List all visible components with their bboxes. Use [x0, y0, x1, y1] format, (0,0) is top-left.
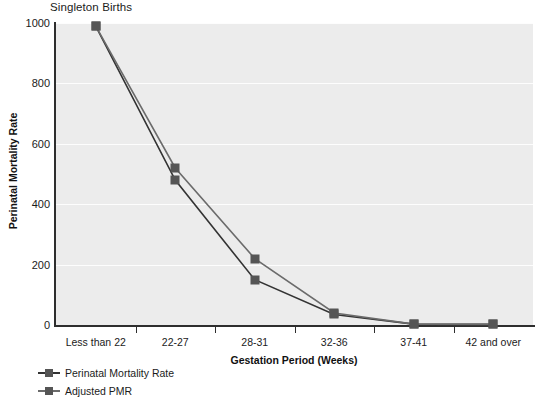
y-axis-tick-label: 800 — [2, 77, 50, 89]
data-point-marker — [250, 254, 259, 263]
data-point-marker — [171, 163, 180, 172]
x-axis-tick-label: Less than 22 — [66, 336, 126, 348]
gridline — [56, 144, 533, 145]
gridline — [56, 204, 533, 205]
data-point-marker — [409, 320, 418, 329]
legend-marker-icon — [38, 385, 60, 397]
chart-title: Singleton Births — [50, 1, 132, 13]
data-point-marker — [250, 275, 259, 284]
x-axis-tick-label: 37-41 — [400, 336, 427, 348]
y-axis-line — [54, 22, 56, 326]
data-point-marker — [91, 22, 100, 31]
x-axis-tick-label: 22-27 — [162, 336, 189, 348]
legend-item-label: Perinatal Mortality Rate — [65, 367, 174, 379]
gridline — [56, 265, 533, 266]
gridline — [56, 23, 533, 24]
x-axis-tick-mark — [136, 325, 137, 333]
legend-item[interactable]: Perinatal Mortality Rate — [38, 364, 174, 382]
x-axis-tick-label: 42 and over — [466, 336, 521, 348]
y-axis-tick-label: 600 — [2, 138, 50, 150]
data-point-marker — [330, 308, 339, 317]
chart-figure: Singleton Births Perinatal Mortality Rat… — [0, 0, 547, 408]
gridline — [56, 83, 533, 84]
y-axis-title: Perinatal Mortality Rate — [7, 86, 19, 256]
x-axis-tick-mark — [215, 325, 216, 333]
x-axis-tick-mark — [454, 325, 455, 333]
chart-legend: Perinatal Mortality RateAdjusted PMR — [38, 364, 174, 400]
legend-item-label: Adjusted PMR — [65, 385, 132, 397]
y-axis-tick-label: 200 — [2, 259, 50, 271]
data-point-marker — [489, 320, 498, 329]
y-axis-tick-label: 400 — [2, 198, 50, 210]
plot-area — [56, 23, 533, 325]
x-axis-tick-label: 28-31 — [241, 336, 268, 348]
x-axis-tick-label: 32-36 — [321, 336, 348, 348]
data-point-marker — [171, 176, 180, 185]
y-axis-tick-label: 1000 — [2, 17, 50, 29]
x-axis-tick-mark — [374, 325, 375, 333]
x-axis-tick-mark — [295, 325, 296, 333]
legend-item[interactable]: Adjusted PMR — [38, 382, 174, 400]
legend-marker-icon — [38, 367, 60, 379]
y-axis-tick-label: 0 — [2, 319, 50, 331]
